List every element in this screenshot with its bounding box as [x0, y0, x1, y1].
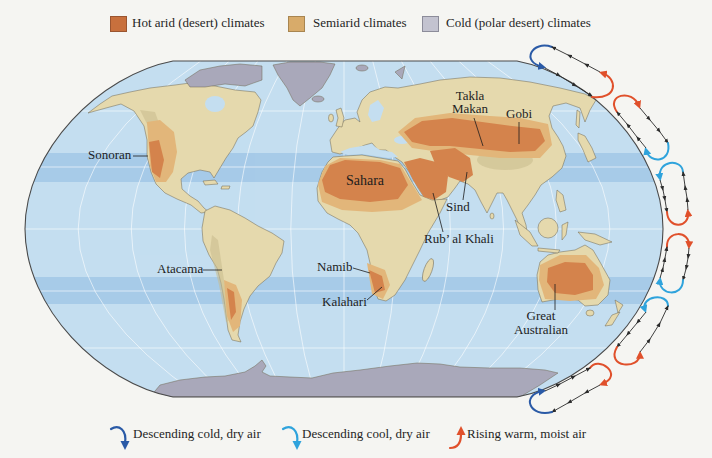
rising-warm-arc: [667, 212, 688, 225]
rising-warm-arc: [592, 73, 613, 97]
descending-cold-arc: [530, 46, 552, 67]
upper-flow-line: [552, 385, 600, 412]
label-kalahari: Kalahari: [322, 294, 367, 309]
swatch-polar-desert-icon: [422, 16, 439, 32]
label-great-australian-line2: Australian: [514, 322, 569, 337]
label-sahara: Sahara: [346, 173, 385, 188]
label-rub-al-khali: Rub’ al Khali: [424, 231, 494, 246]
upper-flow-line: [552, 47, 600, 72]
island-sri-lanka: [490, 213, 494, 219]
hudson-bay: [205, 96, 225, 112]
descending-cool-arc: [660, 163, 683, 178]
island-tasmania: [586, 310, 594, 316]
upper-flow-line: [683, 172, 688, 210]
label-sonoran: Sonoran: [88, 147, 132, 162]
iceland: [312, 96, 324, 102]
label-namib: Namib: [317, 259, 352, 274]
upper-flow-line: [683, 248, 689, 280]
rising-warm-arc: [590, 364, 611, 384]
descending-cold-arrow-icon: [108, 422, 132, 452]
svalbard: [356, 65, 368, 71]
upper-flow-line: [640, 108, 668, 143]
legend-label-rising-warm: Rising warm, moist air: [467, 427, 586, 441]
rising-warm-arc: [614, 95, 639, 112]
descending-cool-arc: [644, 297, 668, 310]
rising-warm-arc: [614, 347, 640, 365]
label-gobi: Gobi: [506, 106, 532, 121]
circulation-cell-south-tropical: [660, 234, 689, 292]
legend-label-hot-arid: Hot arid (desert) climates: [132, 16, 264, 30]
label-sind: Sind: [446, 199, 470, 214]
island-sakhalin: [576, 110, 580, 128]
legend-label-descending-cool: Descending cool, dry air: [302, 427, 430, 441]
legend-label-polar-desert: Cold (polar desert) climates: [446, 16, 591, 30]
descending-cold-arc: [530, 391, 552, 413]
legend-label-descending-cold: Descending cold, dry air: [133, 427, 261, 441]
label-great-australian-line1: Great: [527, 308, 556, 323]
descending-cool-arc: [660, 280, 683, 292]
descending-cool-arc: [646, 143, 668, 160]
world-map: Sonoran Takla Makan Gobi Sahara Sind Rub…: [0, 0, 712, 458]
legend-label-semiarid: Semiarid climates: [313, 16, 407, 30]
upper-flow-line: [640, 306, 668, 352]
desert-great-australian: [547, 262, 593, 295]
swatch-hot-arid-icon: [110, 16, 127, 32]
label-takla-makan-line2: Makan: [452, 101, 489, 116]
swatch-semiarid-icon: [288, 16, 305, 32]
island-ireland: [329, 114, 334, 122]
figure-canvas: Sonoran Takla Makan Gobi Sahara Sind Rub…: [0, 0, 712, 458]
island-borneo: [538, 218, 558, 238]
circulation-cell-north-tropical: [660, 163, 688, 225]
descending-cool-arrow-icon: [280, 422, 304, 452]
rising-warm-arc: [667, 234, 689, 247]
label-atacama: Atacama: [157, 261, 203, 276]
